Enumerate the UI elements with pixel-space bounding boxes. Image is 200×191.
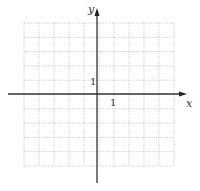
axes <box>8 8 187 183</box>
y-axis-arrow-icon <box>95 8 100 16</box>
y-axis-label: y <box>88 4 94 15</box>
x-axis-arrow-icon <box>179 92 187 97</box>
y-unit-tick-label: 1 <box>90 77 96 87</box>
coordinate-plane <box>0 0 200 191</box>
x-axis-label: x <box>186 98 192 109</box>
x-unit-tick-label: 1 <box>110 98 116 108</box>
